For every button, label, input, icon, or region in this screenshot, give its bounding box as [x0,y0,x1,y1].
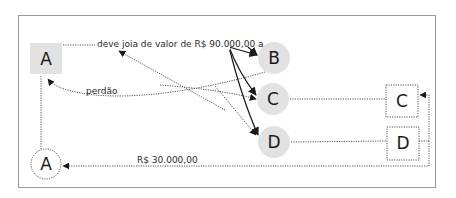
node-c-box: C [386,85,418,117]
edge-d-circle-to-d-box [291,141,387,142]
node-d-box-label: D [396,133,409,153]
debt-label: deve joia de valor de R$ 90.000,00 a [97,39,264,49]
node-d-box: D [387,127,419,160]
node-c-box-label: C [396,91,408,111]
node-d-circle: D [258,126,290,158]
node-a-square-label: A [40,49,52,69]
node-b-circle-label: B [268,48,280,68]
node-c-circle: C [257,83,289,115]
node-a-square: A [30,43,62,74]
node-a-circle: A [31,149,61,179]
node-a-circle-label: A [40,154,52,174]
edge-debt-to-c [229,47,256,95]
pardon-label: perdão [86,86,118,96]
node-d-circle-label: D [267,132,280,152]
edge-d-to-debt-label [119,51,225,110]
payment-label: R$ 30.000,00 [137,155,198,165]
edge-payment [63,141,429,166]
debt-flow-diagram: A B C D C D A deve joia de valor de R$ 9… [0,0,456,198]
edge-pardon [48,72,265,96]
node-c-circle-label: C [267,89,279,109]
edge-d-box-to-c-box [419,95,429,141]
edge-debt-label-to-d [215,86,256,135]
